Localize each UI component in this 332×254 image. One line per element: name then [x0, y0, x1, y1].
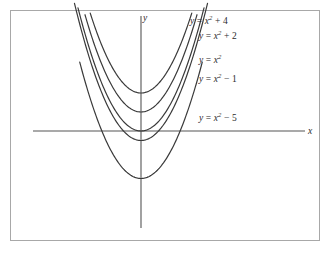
- label-eq-cm1: =: [203, 74, 213, 84]
- curve-label-plus-4: y = x2 + 4: [190, 16, 228, 26]
- y-axis-label: y: [143, 13, 147, 23]
- label-eq-c2: =: [203, 31, 213, 41]
- curve-label-minus-5: y = x2 − 5: [199, 113, 237, 123]
- axes-group: [33, 16, 305, 228]
- label-tail-c2: + 2: [221, 31, 236, 41]
- label-tail-cm1: − 1: [221, 74, 236, 84]
- label-eq-cm5: =: [203, 113, 213, 123]
- label-exp-c0: 2: [218, 53, 221, 60]
- curve-label-plus-2: y = x2 + 2: [199, 31, 237, 41]
- curve-label-minus-1: y = x2 − 1: [199, 74, 237, 84]
- curve-label-zero: y = x2: [199, 55, 221, 65]
- label-tail-c4: + 4: [212, 16, 227, 26]
- x-axis-label: x: [308, 126, 312, 136]
- label-eq-c0: =: [203, 55, 213, 65]
- label-tail-cm5: − 5: [221, 113, 236, 123]
- figure-container: y = x2 + 4 y = x2 + 2 y = x2 y = x2 − 1 …: [0, 0, 332, 254]
- label-eq-c4: =: [194, 16, 204, 26]
- parabola-plot: [0, 0, 332, 254]
